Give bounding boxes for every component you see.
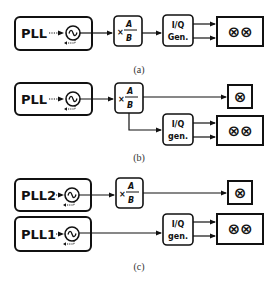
mixer-icon: ⊗⊗ bbox=[227, 220, 252, 238]
mixer-pair-block: ⊗⊗ bbox=[217, 116, 263, 145]
divider-block: × A B bbox=[116, 178, 143, 208]
iq-label: I/Q bbox=[172, 220, 185, 229]
architecture-diagram: PLL × A B I/Q Gen. ⊗⊗ (a) PLL bbox=[0, 0, 278, 283]
iq-generator-block: I/Q gen. bbox=[163, 114, 193, 145]
caption-b: (b) bbox=[133, 152, 145, 164]
pll-label: PLL bbox=[21, 92, 47, 107]
mixer-single-block: ⊗ bbox=[228, 181, 252, 204]
divider-denominator: B bbox=[128, 196, 134, 205]
mixer-single-block: ⊗ bbox=[228, 85, 252, 108]
multiply-sign: × bbox=[117, 28, 124, 37]
pll2-label: PLL2 bbox=[21, 188, 56, 203]
mixer-pair-block: ⊗⊗ bbox=[217, 17, 263, 46]
iq-label: I/Q bbox=[172, 21, 185, 30]
panel-a: PLL × A B I/Q Gen. ⊗⊗ (a) bbox=[15, 15, 263, 76]
caption-a: (a) bbox=[133, 64, 144, 76]
multiply-sign: × bbox=[119, 190, 126, 199]
divider-numerator: A bbox=[125, 20, 132, 29]
divider-numerator: A bbox=[126, 87, 133, 96]
pll-label: PLL bbox=[21, 26, 47, 41]
mixer-icon: ⊗ bbox=[234, 184, 247, 202]
caption-c: (c) bbox=[133, 261, 144, 273]
iq-label: I/Q bbox=[172, 120, 185, 129]
divider-numerator: A bbox=[127, 182, 134, 191]
gen-label: gen. bbox=[168, 132, 188, 141]
iq-generator-block: I/Q Gen. bbox=[163, 15, 193, 46]
iq-generator-block: I/Q gen. bbox=[163, 214, 193, 245]
panel-b: PLL × A B ⊗ I/Q gen. ⊗⊗ (b) bbox=[15, 83, 263, 164]
mixer-icon: ⊗⊗ bbox=[227, 122, 252, 140]
pll1-label: PLL1 bbox=[21, 227, 56, 242]
pll1-block: PLL1 bbox=[15, 217, 91, 251]
mixer-icon: ⊗⊗ bbox=[227, 23, 252, 41]
divider-denominator: B bbox=[126, 34, 132, 43]
mixer-pair-block: ⊗⊗ bbox=[217, 214, 263, 244]
mixer-icon: ⊗ bbox=[234, 88, 247, 106]
divider-block: × A B bbox=[114, 16, 142, 46]
divider-block: × A B bbox=[115, 83, 143, 113]
panel-c: PLL2 × A B ⊗ PLL1 I/Q gen. bbox=[15, 178, 263, 273]
gen-label: Gen. bbox=[168, 33, 189, 42]
gen-label: gen. bbox=[168, 232, 188, 241]
multiply-sign: × bbox=[118, 95, 125, 104]
divider-denominator: B bbox=[127, 101, 133, 110]
